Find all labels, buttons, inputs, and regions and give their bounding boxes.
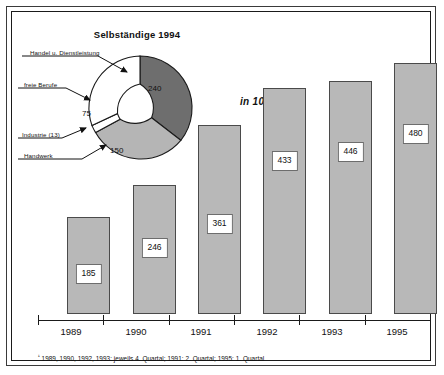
x-axis-label-1993: 1993 bbox=[302, 326, 362, 337]
footnote-marker: ¹ bbox=[38, 353, 40, 359]
x-axis-tick bbox=[234, 315, 235, 325]
x-axis-tick bbox=[299, 315, 300, 325]
bar-1993: 446 bbox=[329, 81, 372, 314]
bar-1991: 361 bbox=[198, 125, 241, 314]
x-axis-label-1990: 1990 bbox=[106, 326, 166, 337]
figure-page: Selbständige 1994 240 75 150 bbox=[0, 0, 444, 375]
x-axis-tick bbox=[430, 315, 431, 325]
donut-label-freie-berufe: freie Berufe bbox=[24, 81, 57, 88]
x-axis-tick bbox=[365, 315, 366, 325]
inner-border: Selbständige 1994 240 75 150 bbox=[11, 11, 431, 361]
bar-1989: 185 bbox=[67, 217, 110, 314]
footnote-text: 1989, 1990, 1992, 1993: jeweils 4. Quart… bbox=[42, 355, 265, 362]
bar-1995: 480 bbox=[394, 63, 437, 314]
bar-1992: 433 bbox=[263, 88, 306, 314]
bar-value-1990: 246 bbox=[141, 238, 167, 258]
x-axis-tick bbox=[103, 315, 104, 325]
footnote: ¹ 1989, 1990, 1992, 1993: jeweils 4. Qua… bbox=[38, 353, 264, 362]
donut-title: Selbständige 1994 bbox=[67, 29, 207, 40]
x-axis-label-1995: 1995 bbox=[367, 326, 427, 337]
x-axis-label-1991: 1991 bbox=[171, 326, 231, 337]
bar-value-1992: 433 bbox=[271, 151, 297, 171]
x-axis-tick bbox=[38, 315, 39, 325]
donut-label-industrie: Industrie (13) bbox=[22, 131, 60, 138]
x-axis-tick bbox=[169, 315, 170, 325]
bar-series: 185246361433446480 bbox=[56, 42, 444, 314]
bar-1990: 246 bbox=[133, 185, 176, 314]
bar-value-1995: 480 bbox=[402, 124, 428, 144]
bar-value-1991: 361 bbox=[206, 214, 232, 234]
bar-value-1993: 446 bbox=[337, 142, 363, 162]
bar-value-1989: 185 bbox=[75, 264, 101, 284]
x-axis-label-1989: 1989 bbox=[41, 326, 101, 337]
donut-label-handwerk: Handwerk bbox=[24, 152, 53, 159]
x-axis-label-1992: 1992 bbox=[237, 326, 297, 337]
